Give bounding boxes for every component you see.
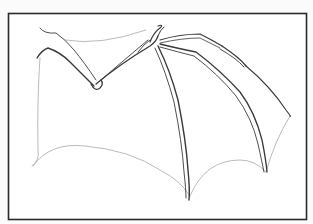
bat-wing-drawing — [0, 0, 313, 224]
picture-frame — [9, 14, 307, 220]
illustration-canvas: Bat wing sketch in rectangular frame — [0, 0, 313, 224]
